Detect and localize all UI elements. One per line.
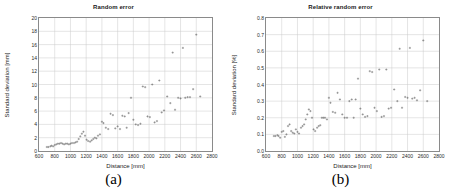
scatter-point xyxy=(326,118,328,120)
x-tick-label: 1400 xyxy=(96,153,107,159)
x-tick-label: 2200 xyxy=(159,153,170,159)
scatter-point xyxy=(144,86,146,88)
scatter-point xyxy=(161,111,163,113)
panel-a: Random error Standard deviation [mm] 024… xyxy=(0,0,227,195)
scatter-point xyxy=(393,88,395,90)
y-tick-label: 0.5 xyxy=(257,65,264,71)
scatter-point xyxy=(279,137,281,139)
scatter-point xyxy=(312,128,314,130)
scatter-point xyxy=(82,131,84,133)
scatter-point xyxy=(409,47,411,49)
x-axis-label-b: Distance [mm] xyxy=(265,163,440,169)
y-tick-label: 0.8 xyxy=(257,15,264,21)
figure-panels-row: Random error Standard deviation [mm] 024… xyxy=(0,0,454,195)
plot-area-a: 0246810121416182060080010001200140016001… xyxy=(38,17,213,152)
scatter-point xyxy=(353,117,355,119)
scatter-point xyxy=(187,96,189,98)
y-tick-label: 8 xyxy=(34,95,37,101)
scatter-point xyxy=(316,127,318,129)
scatter-point xyxy=(158,79,160,81)
scatter-point xyxy=(182,47,184,49)
scatter-point xyxy=(151,83,153,85)
scatter-point xyxy=(89,141,91,143)
scatter-point xyxy=(142,85,144,87)
panel-b: Relative random error Standard deviation… xyxy=(227,0,454,195)
scatter-point xyxy=(390,107,392,109)
scatter-point xyxy=(78,138,80,140)
scatter-point xyxy=(357,78,359,80)
scatter-point xyxy=(401,107,403,109)
x-tick-label: 1000 xyxy=(65,153,76,159)
y-tick-label: 0.7 xyxy=(257,32,264,38)
scatter-point xyxy=(289,123,291,125)
scatter-point xyxy=(381,116,383,118)
scatter-point xyxy=(169,102,171,104)
y-tick-label: 10 xyxy=(31,82,37,88)
scatter-point xyxy=(163,109,165,111)
scatter-point xyxy=(166,95,168,97)
x-tick-label: 1600 xyxy=(339,153,350,159)
scatter-point xyxy=(295,128,297,130)
y-tick-label: 0.1 xyxy=(257,131,264,137)
scatter-point xyxy=(385,68,387,70)
scatter-point xyxy=(359,108,361,110)
scatter-point xyxy=(274,135,276,137)
x-axis-label-a: Distance [mm] xyxy=(38,163,213,169)
scatter-point xyxy=(179,97,181,99)
x-tick-label: 1000 xyxy=(292,153,303,159)
x-tick-label: 2800 xyxy=(206,153,217,159)
scatter-point xyxy=(388,108,390,110)
scatter-point xyxy=(426,100,428,102)
x-tick-label: 1800 xyxy=(355,153,366,159)
scatter-point xyxy=(344,117,346,119)
scatter-point xyxy=(416,99,418,101)
scatter-point xyxy=(406,97,408,99)
scatter-point xyxy=(328,97,330,99)
scatter-point xyxy=(135,123,137,125)
x-tick-label: 1600 xyxy=(112,153,123,159)
scatter-point xyxy=(91,139,93,141)
scatter-point xyxy=(334,112,336,114)
scatter-point xyxy=(314,130,316,132)
scatter-point xyxy=(411,98,413,100)
scatter-point xyxy=(376,110,378,112)
scatter-point xyxy=(174,109,176,111)
scatter-point xyxy=(177,97,179,99)
scatter-point xyxy=(369,70,371,72)
scatter-point xyxy=(195,34,197,36)
y-tick-label: 4 xyxy=(34,121,37,127)
scatter-point xyxy=(383,115,385,117)
y-tick-label: 18 xyxy=(31,28,37,34)
scatter-point xyxy=(105,127,107,129)
y-tick-label: 0.2 xyxy=(257,115,264,121)
y-tick-label: 16 xyxy=(31,42,37,48)
x-tick-label: 2200 xyxy=(386,153,397,159)
scatter-point xyxy=(332,111,334,113)
scatter-point xyxy=(107,128,109,130)
scatter-point xyxy=(324,117,326,119)
chart-title-a: Random error xyxy=(0,4,227,10)
y-axis-label-b: Standard deviation [%] xyxy=(229,17,239,152)
scatter-point xyxy=(399,48,401,50)
scatter-point xyxy=(47,146,49,148)
scatter-point xyxy=(303,123,305,125)
x-tick-label: 1200 xyxy=(308,153,319,159)
scatter-point xyxy=(97,135,99,137)
scatter-point xyxy=(308,108,310,110)
scatter-point xyxy=(378,68,380,70)
scatter-point xyxy=(189,96,191,98)
y-tick-label: 0.4 xyxy=(257,82,264,88)
scatter-point xyxy=(84,135,86,137)
scatter-point xyxy=(298,132,300,134)
x-tick-label: 2000 xyxy=(144,153,155,159)
scatter-point xyxy=(101,121,103,123)
scatter-point xyxy=(287,125,289,127)
x-tick-label: 600 xyxy=(262,153,270,159)
scatter-point xyxy=(130,97,132,99)
scatter-point xyxy=(128,112,130,114)
scatter-point xyxy=(404,96,406,98)
chart-title-b: Relative random error xyxy=(227,4,454,10)
scatter-point xyxy=(199,95,201,97)
scatter-point xyxy=(362,113,364,115)
scatter-point xyxy=(114,127,116,129)
